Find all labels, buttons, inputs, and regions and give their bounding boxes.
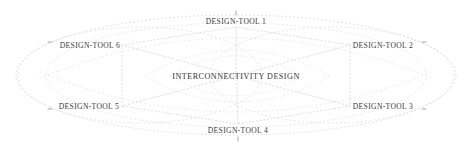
- diagram-canvas: DESIGN-TOOL 1 DESIGN-TOOL 2 DESIGN-TOOL …: [0, 0, 472, 150]
- node-label-tool-6[interactable]: DESIGN-TOOL 6: [60, 41, 120, 50]
- edge-tool1-tool2: [236, 27, 350, 45]
- node-label-tool-5[interactable]: DESIGN-TOOL 5: [59, 102, 119, 111]
- center-hub-label[interactable]: INTERCONNECTIVITY DESIGN: [172, 72, 299, 81]
- node-label-tool-3[interactable]: DESIGN-TOOL 3: [353, 102, 413, 111]
- node-label-tool-2[interactable]: DESIGN-TOOL 2: [353, 41, 413, 50]
- node-label-tool-4[interactable]: DESIGN-TOOL 4: [208, 126, 268, 135]
- node-label-tool-1[interactable]: DESIGN-TOOL 1: [206, 17, 266, 26]
